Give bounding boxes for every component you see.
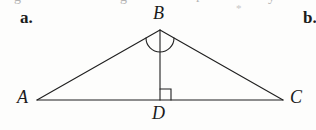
segment-AB (37, 30, 160, 100)
right-angle-marker-D-icon (160, 89, 171, 100)
vertex-label-B: B (153, 4, 164, 22)
vertex-label-A: A (17, 88, 28, 106)
segment-BC (160, 30, 283, 100)
vertex-label-C: C (290, 88, 302, 106)
vertex-label-D: D (152, 104, 165, 122)
figure-page: g g r y * a. b. A B C D (0, 0, 316, 130)
